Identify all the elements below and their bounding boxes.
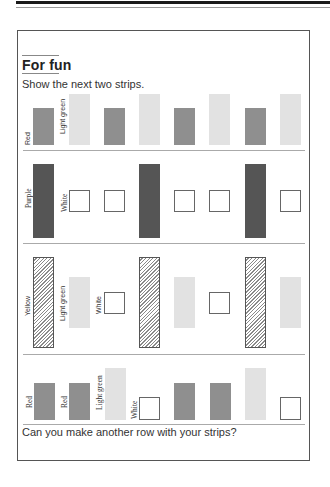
strip-purple xyxy=(33,164,54,238)
strip-light-green xyxy=(174,277,195,328)
strip-yellow xyxy=(33,257,54,348)
row-divider xyxy=(23,354,305,355)
strip-red xyxy=(33,108,54,145)
strip-white xyxy=(209,190,230,212)
top-rule xyxy=(16,1,330,4)
strip-label: White xyxy=(130,401,139,419)
strip-light-green xyxy=(245,368,266,420)
strip-yellow xyxy=(245,257,266,348)
strip-label: White xyxy=(95,296,102,314)
strip-red xyxy=(69,383,90,420)
strip-light-green xyxy=(69,94,90,145)
strip-light-green xyxy=(209,94,230,145)
strip-red xyxy=(174,383,195,420)
follow-up-question: Can you make another row with your strip… xyxy=(22,426,237,438)
strip-label: Yellow xyxy=(24,296,31,316)
strip-white xyxy=(209,292,230,314)
strip-purple xyxy=(245,164,266,238)
strip-red xyxy=(104,108,125,145)
section-title: For fun xyxy=(22,57,72,73)
strip-white xyxy=(280,190,301,212)
instruction-text: Show the next two strips. xyxy=(22,78,144,90)
strip-label: Red xyxy=(60,396,69,408)
strip-label: Red xyxy=(24,132,31,145)
row-divider xyxy=(23,424,305,425)
row-divider xyxy=(23,150,305,151)
strip-light-green xyxy=(280,277,301,328)
strip-light-green xyxy=(139,94,160,145)
strip-white xyxy=(139,397,160,420)
strip-label: Light green xyxy=(95,375,104,410)
title-rule-top xyxy=(22,55,59,56)
strip-white xyxy=(104,292,125,314)
strip-label: Light green xyxy=(59,99,66,134)
strip-light-green xyxy=(280,94,301,145)
strip-white xyxy=(69,190,90,212)
strip-red xyxy=(174,108,195,145)
top-thin-rule xyxy=(16,7,330,8)
strip-red xyxy=(245,108,266,145)
strip-label: Purple xyxy=(24,188,33,208)
strip-white xyxy=(174,190,195,212)
strip-light-green xyxy=(105,368,126,420)
title-rule-bottom xyxy=(22,73,59,74)
strip-label: Red xyxy=(25,396,34,408)
strip-label: White xyxy=(60,194,69,212)
strip-white xyxy=(104,190,125,212)
strip-red xyxy=(34,383,55,420)
strip-yellow xyxy=(139,257,160,348)
strip-light-green xyxy=(69,277,90,328)
strip-label: Light green xyxy=(59,286,66,321)
strip-red xyxy=(210,383,231,420)
row-divider xyxy=(23,243,305,244)
strip-white xyxy=(280,397,301,420)
strip-purple xyxy=(139,164,160,238)
